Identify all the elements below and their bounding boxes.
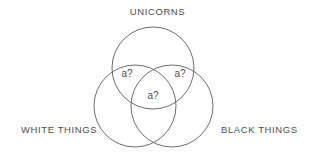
circle-white-things — [94, 65, 176, 147]
region-label-unicorns-white-black: a? — [147, 90, 158, 101]
circle-black-things — [131, 65, 213, 147]
region-label-unicorns-black: a? — [174, 68, 185, 79]
set-label-black-things: BLACK THINGS — [221, 124, 298, 135]
region-label-unicorns-white: a? — [121, 68, 132, 79]
venn-diagram-canvas: UNICORNS WHITE THINGS BLACK THINGS a? a?… — [0, 0, 315, 158]
set-label-white-things: WHITE THINGS — [21, 124, 97, 135]
set-label-unicorns: UNICORNS — [0, 6, 315, 17]
